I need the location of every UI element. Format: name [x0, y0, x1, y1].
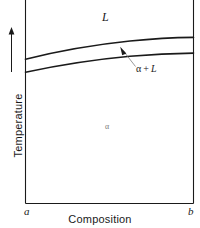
liquid-symbol: L [151, 63, 157, 74]
up-arrow-icon [9, 27, 15, 72]
alpha-symbol: α [136, 63, 141, 74]
phase-diagram-figure: Temperature Composition a b L α α+L [0, 0, 200, 228]
x-axis-start-label: a [24, 206, 30, 217]
y-axis-label: Temperature [13, 76, 24, 176]
solidus-curve [26, 53, 194, 72]
plus-symbol: + [143, 63, 149, 74]
liquidus-curve [26, 37, 194, 59]
x-axis-label: Composition [0, 214, 200, 225]
diagram-canvas [0, 0, 200, 228]
x-axis-end-label: b [188, 206, 194, 217]
region-label-alpha-plus-liquid: α+L [136, 64, 156, 74]
region-label-liquid: L [102, 11, 109, 23]
region-label-alpha: α [105, 123, 109, 131]
